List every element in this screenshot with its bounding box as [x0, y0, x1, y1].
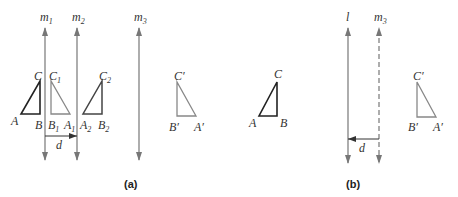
arrow-up-icon — [74, 27, 80, 36]
vertex-label-A1: A1 — [63, 118, 75, 134]
line-m3-dashed: m3 — [374, 10, 387, 164]
label-d: d — [359, 141, 366, 155]
distance-arrow-d: d — [45, 133, 77, 152]
line-l: l — [345, 10, 351, 164]
vertex-label-C2: C2 — [99, 69, 111, 85]
vertex-label-B1: B1 — [48, 118, 59, 134]
figure-a: m1 m2 m3 d A B C — [10, 10, 204, 190]
line-m3: m3 — [134, 10, 147, 161]
vertex-label-B2: B2 — [98, 118, 109, 134]
reflection-diagram: m1 m2 m3 d A B C — [0, 0, 458, 197]
vertex-label-A-prime: A′ — [193, 120, 204, 134]
arrow-left-icon — [348, 136, 356, 142]
arrow-up-icon — [42, 27, 48, 36]
vertex-label-B: B — [35, 118, 43, 132]
vertex-label-C: C — [274, 67, 283, 81]
label-m3: m3 — [134, 10, 147, 26]
vertex-label-A-prime: A′ — [432, 120, 443, 134]
arrow-down-icon — [376, 155, 382, 164]
vertex-label-C-prime: C′ — [413, 69, 424, 83]
arrow-down-icon — [136, 152, 142, 161]
label-m1: m1 — [40, 10, 53, 26]
arrow-up-icon — [376, 27, 382, 36]
vertex-label-C: C — [34, 69, 43, 83]
middle-triangle-ABC: A B C — [248, 67, 288, 130]
line-m2: m2 — [72, 10, 85, 161]
triangle-A-prime-B-prime-C-prime: B′ A′ C′ — [169, 69, 204, 134]
triangle-ABC: A B C — [10, 69, 43, 132]
vertex-label-A: A — [10, 114, 19, 128]
arrow-down-icon — [42, 152, 48, 161]
triangle-A2B2C2: A2 B2 C2 — [79, 69, 111, 134]
arrow-down-icon — [345, 155, 351, 164]
triangle-A1B1C1: B1 A1 C1 — [48, 69, 75, 134]
arrow-up-icon — [345, 27, 351, 36]
vertex-label-B-prime: B′ — [169, 120, 179, 134]
figure-b: l m3 d B′ A′ C′ (b) — [345, 10, 443, 190]
vertex-label-B: B — [280, 116, 288, 130]
caption-a: (a) — [124, 178, 138, 190]
vertex-label-A: A — [248, 116, 257, 130]
vertex-label-B-prime: B′ — [408, 120, 418, 134]
distance-arrow-d: d — [348, 136, 379, 155]
vertex-label-C-prime: C′ — [174, 69, 185, 83]
triangle-A-prime-B-prime-C-prime: B′ A′ C′ — [408, 69, 443, 134]
arrow-up-icon — [136, 27, 142, 36]
caption-b: (b) — [346, 178, 360, 190]
arrow-down-icon — [74, 152, 80, 161]
label-d: d — [56, 138, 63, 152]
vertex-label-C1: C1 — [49, 69, 61, 85]
label-l: l — [346, 10, 350, 24]
vertex-label-A2: A2 — [79, 118, 91, 134]
label-m3: m3 — [374, 10, 387, 26]
label-m2: m2 — [72, 10, 85, 26]
